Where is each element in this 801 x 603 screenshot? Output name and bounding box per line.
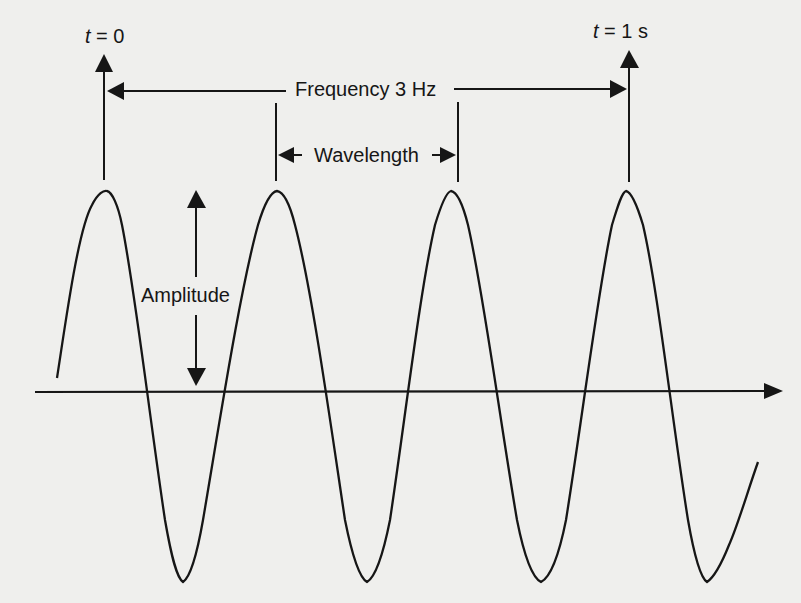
time-value: = 1 s — [599, 20, 648, 42]
frequency-label: Frequency 3 Hz — [295, 78, 436, 100]
up-arrowhead-icon — [620, 50, 639, 68]
time-value: = 0 — [91, 25, 125, 47]
t-end-label: t = 1 s — [593, 20, 648, 42]
sine-wave — [57, 191, 758, 582]
down-arrowhead-icon — [187, 368, 206, 386]
right-arrowhead-icon — [610, 80, 627, 98]
right-arrowhead-icon — [440, 147, 456, 163]
amplitude-label: Amplitude — [141, 284, 230, 306]
t-start-label: t = 0 — [85, 25, 124, 47]
up-arrowhead-icon — [187, 190, 206, 208]
axis-arrowhead-icon — [764, 383, 783, 399]
up-arrowhead-icon — [95, 54, 113, 72]
left-arrowhead-icon — [278, 147, 294, 163]
wavelength-span-arrow — [276, 102, 458, 182]
wavelength-label: Wavelength — [314, 144, 419, 166]
t-end-marker — [620, 50, 639, 182]
waveform-diagram: t = 0 t = 1 s Frequency 3 Hz Wavelength … — [0, 0, 801, 603]
t-start-marker — [95, 54, 113, 180]
left-arrowhead-icon — [107, 82, 124, 100]
